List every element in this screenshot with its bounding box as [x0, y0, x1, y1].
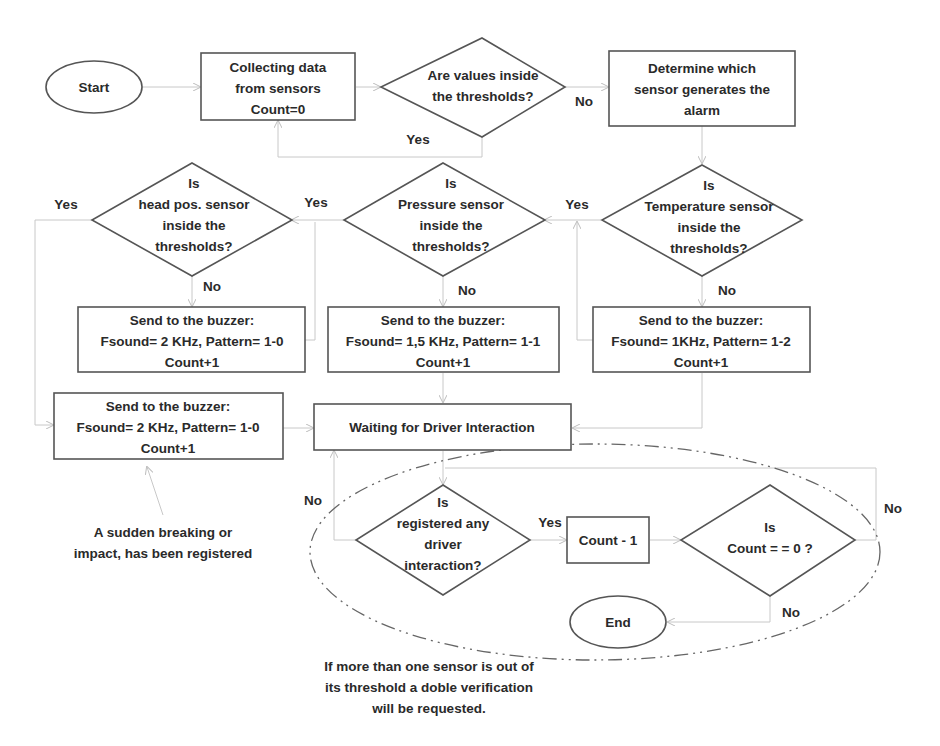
svg-text:Is: Is [764, 520, 775, 535]
svg-text:inside the: inside the [419, 218, 483, 233]
label-temp-no: No [718, 283, 736, 298]
label-temp-yes: Yes [565, 197, 588, 212]
temperature-sensor-decision: Is Temperature sensor inside the thresho… [602, 165, 802, 276]
svg-text:thresholds?: thresholds? [155, 239, 232, 254]
svg-text:Are values inside: Are values inside [427, 68, 539, 83]
buzzer-head-box: Send to the buzzer: Fsound= 2 KHz, Patte… [78, 307, 305, 372]
svg-text:interaction?: interaction? [404, 558, 481, 573]
svg-text:Count=0: Count=0 [251, 102, 305, 117]
svg-text:the thresholds?: the thresholds? [432, 89, 533, 104]
svg-text:Send to the buzzer:: Send to the buzzer: [106, 399, 231, 414]
count-zero-decision: Is Count = = 0 ? [681, 485, 855, 596]
svg-text:Is: Is [437, 495, 448, 510]
flowchart: Start Collecting data from sensors Count… [0, 0, 940, 746]
svg-text:thresholds?: thresholds? [670, 241, 747, 256]
label-values-yes: Yes [406, 132, 429, 147]
svg-text:Send to the buzzer:: Send to the buzzer: [130, 313, 255, 328]
values-threshold-decision: Are values inside the thresholds? [381, 38, 565, 137]
svg-text:driver: driver [424, 537, 462, 552]
label-head-yes: Yes [54, 197, 77, 212]
svg-text:Fsound= 1,5 KHz, Pattern= 1-1: Fsound= 1,5 KHz, Pattern= 1-1 [346, 334, 541, 349]
svg-text:Send to the buzzer:: Send to the buzzer: [639, 313, 764, 328]
svg-text:will be requested.: will be requested. [371, 701, 485, 716]
determine-sensor-box: Determine which sensor generates the ala… [609, 51, 795, 126]
connector-count-end [668, 596, 770, 622]
connector-buzzer-head-return [305, 222, 315, 340]
driver-interaction-decision: Is registered any driver interaction? [356, 485, 530, 595]
svg-text:Count+1: Count+1 [416, 355, 471, 370]
svg-text:Count = = 0 ?: Count = = 0 ? [727, 541, 813, 556]
svg-text:Count+1: Count+1 [165, 355, 220, 370]
impact-note: A sudden breaking or impact, has been re… [74, 525, 253, 561]
svg-text:Determine which: Determine which [648, 61, 756, 76]
svg-text:thresholds?: thresholds? [412, 239, 489, 254]
connector-buzzer-temp-return [577, 222, 593, 340]
svg-text:Waiting for Driver Interaction: Waiting for Driver Interaction [349, 420, 535, 435]
label-head-no: No [203, 279, 221, 294]
label-interaction-yes: Yes [538, 515, 561, 530]
buzzer-impact-box: Send to the buzzer: Fsound= 2 KHz, Patte… [54, 393, 283, 459]
svg-text:Send to the buzzer:: Send to the buzzer: [381, 313, 506, 328]
svg-text:inside the: inside the [162, 218, 226, 233]
svg-text:Start: Start [79, 80, 110, 95]
svg-text:alarm: alarm [684, 103, 720, 118]
label-pressure-no: No [458, 283, 476, 298]
svg-text:head pos. sensor: head pos. sensor [138, 197, 250, 212]
svg-text:Temperature sensor: Temperature sensor [645, 199, 775, 214]
start-node: Start [46, 61, 142, 113]
svg-text:Is: Is [703, 178, 714, 193]
label-count-zero-no-right: No [884, 501, 902, 516]
head-sensor-decision: Is head pos. sensor inside the threshold… [92, 163, 292, 276]
svg-text:Fsound= 1KHz, Pattern= 1-2: Fsound= 1KHz, Pattern= 1-2 [611, 334, 790, 349]
connector-yes-loop [278, 121, 482, 157]
connector-interaction-no [334, 451, 356, 540]
svg-text:Is: Is [188, 176, 199, 191]
connector-temp-waiting [573, 373, 702, 428]
svg-text:registered any: registered any [397, 516, 490, 531]
svg-text:End: End [605, 615, 631, 630]
svg-text:A sudden breaking or: A sudden breaking or [94, 525, 233, 540]
end-node: End [570, 596, 666, 648]
label-count-zero-no-bottom: No [782, 605, 800, 620]
pressure-sensor-decision: Is Pressure sensor inside the thresholds… [344, 163, 545, 276]
svg-text:Count+1: Count+1 [141, 441, 196, 456]
buzzer-pressure-box: Send to the buzzer: Fsound= 1,5 KHz, Pat… [328, 307, 559, 372]
double-verification-note: If more than one sensor is out of its th… [324, 659, 534, 716]
svg-text:If more than one sensor is out: If more than one sensor is out of [324, 659, 534, 674]
count-minus-box: Count - 1 [567, 517, 649, 563]
svg-text:sensor generates the: sensor generates the [634, 82, 770, 97]
svg-text:inside the: inside the [677, 220, 741, 235]
svg-text:from sensors: from sensors [235, 81, 321, 96]
connector-impact-note [147, 467, 163, 515]
svg-text:Fsound= 2 KHz, Pattern= 1-0: Fsound= 2 KHz, Pattern= 1-0 [76, 420, 259, 435]
waiting-driver-box: Waiting for Driver Interaction [314, 404, 571, 450]
buzzer-temperature-box: Send to the buzzer: Fsound= 1KHz, Patter… [593, 307, 810, 372]
label-values-no: No [575, 94, 593, 109]
svg-text:Count - 1: Count - 1 [579, 533, 638, 548]
svg-text:impact, has been registered: impact, has been registered [74, 546, 253, 561]
label-pressure-yes: Yes [304, 195, 327, 210]
svg-text:Collecting data: Collecting data [230, 60, 327, 75]
collect-data-box: Collecting data from sensors Count=0 [201, 53, 355, 120]
svg-text:its threshold a doble verifica: its threshold a doble verification [325, 680, 533, 695]
svg-text:Pressure sensor: Pressure sensor [398, 197, 505, 212]
svg-text:Fsound= 2 KHz, Pattern= 1-0: Fsound= 2 KHz, Pattern= 1-0 [100, 334, 283, 349]
svg-text:Is: Is [445, 176, 456, 191]
label-interaction-no: No [304, 493, 322, 508]
svg-text:Count+1: Count+1 [674, 355, 729, 370]
